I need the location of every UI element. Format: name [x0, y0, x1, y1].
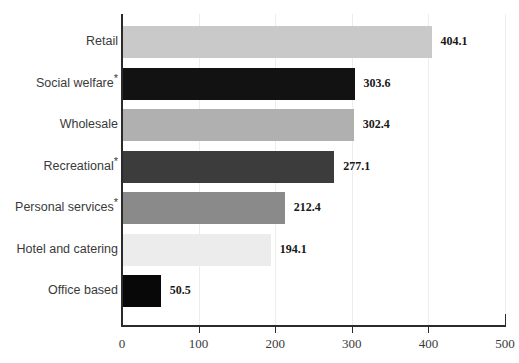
bar-row: 50.5: [122, 275, 505, 316]
x-axis-tick: [352, 327, 353, 333]
bar-row: 194.1: [122, 234, 505, 275]
bar-value-label: 277.1: [343, 159, 370, 174]
x-axis-tick: [275, 327, 276, 333]
x-axis-line: [121, 325, 506, 327]
category-axis-labels: RetailSocial welfare*WholesaleRecreation…: [0, 14, 118, 326]
footnote-marker: *: [114, 71, 118, 83]
x-tick-label: 300: [342, 336, 362, 352]
bar-row: 212.4: [122, 192, 505, 233]
category-label: Recreational*: [0, 159, 118, 173]
bar: [122, 26, 432, 58]
bar: [122, 275, 161, 307]
bar: [122, 234, 271, 266]
x-axis-tick: [199, 327, 200, 333]
bar-chart: 404.1303.6302.4277.1212.4194.150.5 Retai…: [0, 0, 519, 363]
bar-value-label: 50.5: [170, 283, 191, 298]
x-tick-label: 0: [119, 336, 126, 352]
bar: [122, 192, 285, 224]
bar-value-label: 194.1: [280, 242, 307, 257]
bar-value-label: 302.4: [363, 117, 390, 132]
x-tick-label: 400: [419, 336, 439, 352]
category-label: Office based: [0, 283, 118, 297]
bar-row: 277.1: [122, 151, 505, 192]
cut-off-caption-remnant: [0, 0, 519, 3]
plot-area: 404.1303.6302.4277.1212.4194.150.5: [122, 14, 505, 326]
bar-row: 303.6: [122, 68, 505, 109]
bar: [122, 68, 355, 100]
x-tick-label: 200: [265, 336, 285, 352]
category-label: Retail: [0, 34, 118, 48]
category-label: Wholesale: [0, 117, 118, 131]
bar-value-label: 212.4: [294, 200, 321, 215]
category-label: Personal services*: [0, 200, 118, 214]
bar-row: 302.4: [122, 109, 505, 150]
x-axis-tick: [428, 327, 429, 333]
x-axis-end-tick: [505, 314, 506, 327]
category-label: Hotel and catering: [0, 242, 118, 256]
x-tick-label: 100: [189, 336, 209, 352]
gridline: [505, 14, 506, 326]
bar-row: 404.1: [122, 26, 505, 67]
footnote-marker: *: [114, 154, 118, 166]
bar-value-label: 303.6: [364, 76, 391, 91]
footnote-marker: *: [114, 196, 118, 208]
y-axis-line: [121, 14, 123, 327]
category-label: Social welfare*: [0, 76, 118, 90]
x-tick-label: 500: [495, 336, 515, 352]
bar: [122, 109, 354, 141]
bar: [122, 151, 334, 183]
bar-value-label: 404.1: [441, 34, 468, 49]
